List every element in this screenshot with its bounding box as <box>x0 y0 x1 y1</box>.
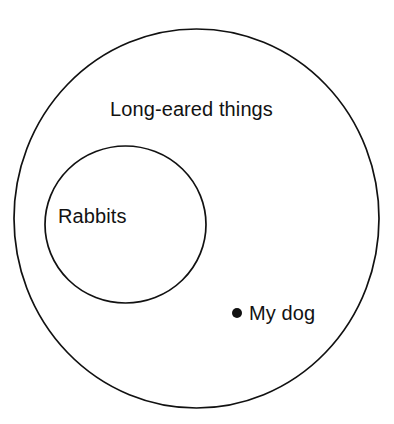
element-dot-icon <box>232 308 242 318</box>
euler-diagram-canvas: Long-eared things Rabbits My dog <box>0 0 394 424</box>
outer-set-label: Long-eared things <box>110 99 273 119</box>
element-my-dog-label: My dog <box>249 303 315 323</box>
element-my-dog: My dog <box>232 303 315 323</box>
inner-set-label: Rabbits <box>58 206 127 226</box>
